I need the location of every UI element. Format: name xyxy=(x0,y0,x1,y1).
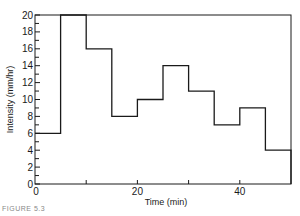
y-axis-ticks: 02468101214161820 xyxy=(22,10,40,190)
x-tick-label: 0 xyxy=(33,186,39,197)
y-tick-label: 20 xyxy=(22,10,34,21)
x-axis-ticks: 02040 xyxy=(33,180,246,197)
y-tick-label: 6 xyxy=(27,128,33,139)
x-tick-label: 40 xyxy=(234,186,246,197)
x-tick-label: 20 xyxy=(132,186,144,197)
step-series xyxy=(35,15,291,184)
y-tick-label: 18 xyxy=(22,26,34,37)
y-tick-label: 16 xyxy=(22,43,34,54)
y-tick-label: 4 xyxy=(27,145,33,156)
y-axis-label: Intensity (mm/hr) xyxy=(5,66,15,134)
y-tick-label: 14 xyxy=(22,60,34,71)
x-axis-label: Time (min) xyxy=(145,197,188,207)
hyetograph-chart: 02468101214161820 02040 Time (min) Inten… xyxy=(0,0,300,216)
y-tick-label: 12 xyxy=(22,77,34,88)
figure-caption: FIGURE 5.3 xyxy=(2,205,45,212)
y-tick-label: 8 xyxy=(27,111,33,122)
y-tick-label: 2 xyxy=(27,162,33,173)
y-tick-label: 10 xyxy=(22,94,34,105)
